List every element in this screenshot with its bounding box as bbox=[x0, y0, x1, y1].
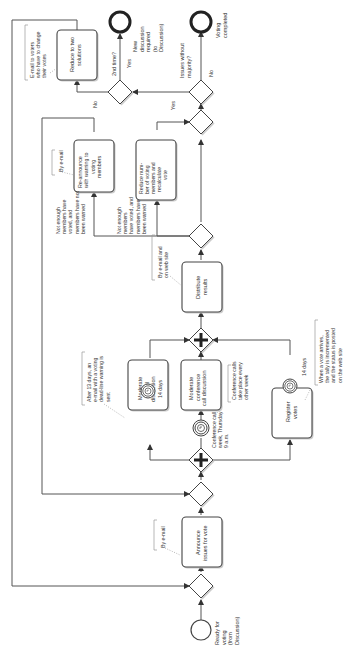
svg-text:New discussion req: New discussion required (to Discussion) bbox=[132, 23, 164, 52]
task-reannounce-warning[interactable]: Re-announce with warning to voting membe… bbox=[74, 140, 116, 194]
start-event[interactable] bbox=[191, 620, 211, 640]
gateway-merge-start[interactable] bbox=[189, 574, 215, 600]
end-event-voting-completed[interactable] bbox=[191, 12, 211, 32]
task-moderate-conference[interactable]: Moderate conference call discussion bbox=[181, 360, 223, 412]
sequence-flows bbox=[12, 20, 290, 620]
end-event-new-discussion-label: New discussion required (to Discussion) bbox=[132, 23, 164, 52]
timer-label-email: 14 days bbox=[157, 379, 163, 398]
condition-not-warned: Not enough members have voted, and membe… bbox=[55, 190, 86, 234]
parallel-gateway-split[interactable] bbox=[189, 448, 215, 474]
svg-text:Issues without majority?: Issues without majority? bbox=[179, 42, 192, 78]
timer-event-conference-label: Conference call week, Thursday 9 a.m. bbox=[211, 410, 229, 448]
annotation-conference-calls: Conference calls take place every other … bbox=[231, 360, 249, 400]
annotation-after-13-days: After 13 days, an e-mail with a voting d… bbox=[86, 354, 111, 402]
svg-text:Moderate conference: Moderate conference call discussion bbox=[188, 371, 207, 406]
svg-text:Ready for voting (: Ready for voting (from Discussion) bbox=[214, 616, 240, 645]
annotation-by-email-reannounce: By e-mail bbox=[58, 150, 64, 172]
bpmn-diagram: Ready for voting (from Discussion) New d… bbox=[0, 0, 363, 650]
gateway-second-time-label: 2nd time? bbox=[111, 52, 117, 76]
svg-text:Announce issues for vote: Announce issues for vote bbox=[195, 526, 208, 561]
flow-label-yes-new-discussion: Yes bbox=[126, 59, 132, 68]
svg-text:Conference call week, Th: Conference call week, Thursday 9 a.m. bbox=[211, 410, 229, 448]
task-announce-issues[interactable]: Announce issues for vote bbox=[182, 517, 224, 569]
gateway-merge-announce[interactable] bbox=[189, 482, 215, 508]
annotation-email-voters: E-mail to voters who have to change thei… bbox=[29, 30, 47, 78]
task-reduce-two-solutions[interactable]: Reduce to two solutions bbox=[57, 30, 99, 82]
task-reduce-members[interactable]: Reduce num- ber of voting members and re… bbox=[136, 140, 178, 202]
gateway-issues-without-majority-label: Issues without majority? bbox=[179, 42, 192, 78]
start-event-label: Ready for voting (from Discussion) bbox=[214, 616, 240, 645]
timer-label-register: 14 days bbox=[301, 357, 307, 376]
task-register-votes[interactable]: Register votes bbox=[272, 388, 314, 440]
task-distribute-results[interactable]: Distribute results bbox=[182, 262, 224, 314]
gateway-enough-votes[interactable] bbox=[189, 224, 215, 250]
flow-label-no-reduce: No bbox=[92, 101, 98, 108]
boundary-timer-email[interactable] bbox=[141, 384, 155, 398]
end-event-new-discussion[interactable] bbox=[110, 12, 130, 32]
timer-event-conference[interactable] bbox=[193, 420, 209, 436]
parallel-gateway-join[interactable] bbox=[189, 328, 215, 354]
flow-label-no-completed: No bbox=[208, 70, 214, 77]
boundary-timer-register[interactable] bbox=[283, 379, 297, 393]
annotation-by-email-web: By e-mail and on web site bbox=[157, 245, 169, 278]
gateway-merge-results[interactable] bbox=[189, 110, 215, 136]
condition-labels: Not enough members have voted, and membe… bbox=[55, 190, 147, 234]
gateway-issues-without-majority[interactable] bbox=[189, 80, 215, 106]
annotation-vote-arrives: When a vote arrives, the tally is increm… bbox=[318, 327, 343, 383]
svg-text:Voting completed: Voting completed bbox=[215, 13, 228, 38]
end-event-voting-completed-label: Voting completed bbox=[215, 13, 228, 38]
gateway-second-time[interactable] bbox=[108, 80, 134, 106]
svg-text:2nd time?: 2nd time? bbox=[111, 52, 117, 76]
annotation-by-email-announce: By e-mail bbox=[160, 526, 166, 548]
flow-label-yes-majority: Yes bbox=[170, 101, 176, 110]
